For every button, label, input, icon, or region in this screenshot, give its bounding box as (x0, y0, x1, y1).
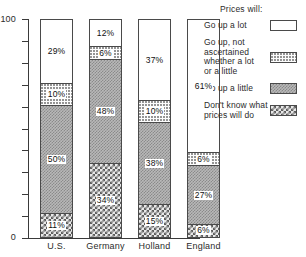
bar-segment-label: 29% (47, 47, 66, 56)
bar-segment-label: 37% (145, 56, 164, 65)
y-axis-tick (22, 63, 28, 64)
legend-entry-label: Go up, notascertainedwhether a lotor a l… (204, 38, 266, 76)
bar-segment-label: 27% (194, 191, 213, 200)
bar-segment-label: 15% (145, 217, 164, 226)
bar-segment-label: 12% (96, 29, 115, 38)
bar-segment-label: 10% (145, 107, 164, 116)
y-axis-top-label: 100 (0, 15, 16, 24)
bar-us: 29%10%50%11% (40, 19, 73, 238)
bar-segment: 12% (90, 20, 121, 46)
x-axis-line (22, 238, 200, 239)
bar-segment-label: 11% (47, 221, 66, 230)
y-axis-tick (22, 85, 28, 86)
legend-entry: Don't know whatprices will do (204, 101, 304, 120)
legend-entry-line: or a little (204, 67, 266, 77)
legend-entry-label: Go up a little (204, 84, 266, 94)
bar-germany: 12%6%48%34% (89, 19, 122, 238)
bar-segment: 6% (188, 152, 219, 165)
legend-entry-label: Don't know whatprices will do (204, 101, 266, 120)
x-axis-label-england: England (174, 241, 233, 251)
y-axis-tick (22, 194, 28, 195)
legend-swatch-dots (270, 52, 297, 63)
bar-segment-label: 61% (194, 82, 213, 91)
legend-swatch-white (270, 20, 297, 31)
legend-entry: Go up a lot (204, 20, 304, 31)
bar-segment-label: 48% (96, 107, 115, 116)
legend-entries: Go up a lotGo up, notascertainedwhether … (204, 20, 304, 120)
legend-entry: Go up a little (204, 83, 304, 94)
stacked-bar-chart: 100 0 U.S.GermanyHollandEngland 29%10%50… (0, 0, 306, 257)
legend-entry-line: Go up a lot (204, 21, 266, 31)
bar-segment: 6% (188, 224, 219, 237)
bar-segment-label: 38% (145, 159, 164, 168)
legend-entry-label: Go up a lot (204, 21, 266, 31)
y-axis-line (28, 19, 29, 238)
bar-segment: 27% (188, 165, 219, 224)
legend-entry: Go up, notascertainedwhether a lotor a l… (204, 38, 304, 76)
bar-holland: 37%10%38%15% (138, 19, 171, 238)
bar-segment: 38% (139, 122, 170, 204)
bar-segment: 48% (90, 59, 121, 163)
y-axis-tick (22, 107, 28, 108)
y-axis-tick (22, 150, 28, 151)
y-axis-bottom-label: 0 (11, 233, 16, 242)
bar-segment-label: 6% (196, 155, 211, 164)
legend-entry-line: prices will do (204, 111, 266, 121)
bar-segment-label: 50% (47, 155, 66, 164)
y-axis-tick (22, 129, 28, 130)
bar-segment: 15% (139, 204, 170, 237)
legend: Prices will: Go up a lotGo up, notascert… (204, 4, 304, 127)
legend-title: Prices will: (220, 4, 304, 14)
bar-segment: 29% (41, 20, 72, 83)
y-axis-tick (22, 172, 28, 173)
bar-segment-label: 6% (98, 49, 113, 58)
bar-segment-label: 10% (47, 90, 66, 99)
bar-segment: 10% (41, 83, 72, 105)
y-axis-tick (22, 41, 28, 42)
bar-segment: 34% (90, 163, 121, 237)
bar-segment: 6% (90, 46, 121, 59)
bar-segment-label: 6% (196, 226, 211, 235)
y-axis-tick (22, 216, 28, 217)
legend-swatch-check (270, 105, 297, 116)
bar-segment: 11% (41, 213, 72, 237)
bar-segment-label: 34% (96, 196, 115, 205)
bar-segment: 10% (139, 100, 170, 122)
legend-entry-line: Go up a little (204, 84, 266, 94)
y-axis-tick (22, 19, 28, 20)
bar-segment: 50% (41, 105, 72, 214)
legend-swatch-gray (270, 83, 297, 94)
bar-segment: 37% (139, 20, 170, 100)
